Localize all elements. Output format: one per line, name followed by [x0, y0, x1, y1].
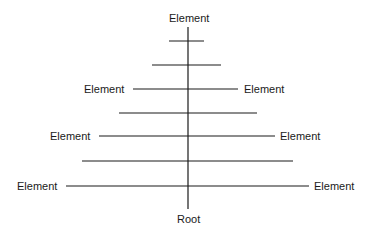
top-element-label: Element [169, 12, 209, 24]
left-element-label-2: Element [50, 130, 90, 142]
left-element-label-1: Element [84, 83, 124, 95]
left-element-label-3: Element [17, 180, 57, 192]
tree-diagram [0, 0, 371, 231]
root-label: Root [177, 213, 200, 225]
right-element-label-2: Element [280, 130, 320, 142]
right-element-label-3: Element [314, 180, 354, 192]
right-element-label-1: Element [244, 83, 284, 95]
